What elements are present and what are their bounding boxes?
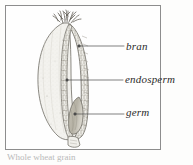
label-bran: bran	[126, 40, 148, 52]
brush-hairs-tuft	[53, 10, 81, 23]
figure-root: bran endosperm germ Whole wheat grain	[0, 0, 193, 165]
figure-caption: Whole wheat grain	[7, 152, 187, 164]
basal-tip	[68, 136, 80, 147]
label-germ: germ	[126, 106, 149, 118]
label-endosperm: endosperm	[125, 73, 175, 85]
